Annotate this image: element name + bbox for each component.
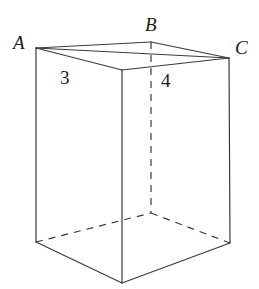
- edge-vertical-right: [229, 58, 230, 243]
- edge-bottom-right-front: [122, 243, 230, 283]
- edge-a-to-b: [36, 42, 151, 48]
- vertex-label-b: B: [145, 15, 157, 34]
- edge-length-label-right: 4: [161, 71, 171, 90]
- edge-length-label-left: 3: [60, 68, 70, 87]
- edge-hidden-bottom-left: [36, 213, 151, 242]
- edge-front-top-to-c: [122, 58, 229, 70]
- vertex-label-a: A: [13, 33, 25, 52]
- prism-drawing: [0, 0, 259, 289]
- vertex-label-c: C: [235, 38, 248, 57]
- edge-bottom-left-front: [36, 242, 122, 283]
- edge-diagonal-a-to-c: [36, 48, 229, 58]
- edge-hidden-bottom-right: [151, 213, 230, 243]
- geometry-figure: A B C 3 4: [0, 0, 259, 289]
